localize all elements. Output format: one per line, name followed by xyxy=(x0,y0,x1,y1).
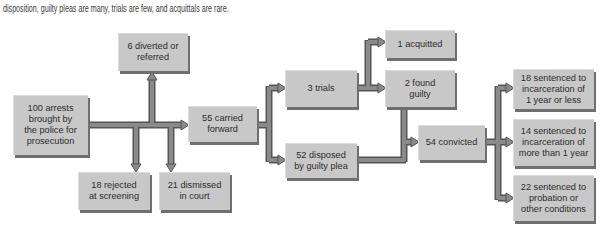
box-line: the police for xyxy=(24,125,77,136)
box-line: more than 1 year xyxy=(519,148,588,159)
box-trials: 3 trials xyxy=(285,70,357,107)
box-arrests: 100 arrests brought by the police for pr… xyxy=(13,95,88,155)
box-line: probation or xyxy=(529,193,578,204)
box-line: 6 diverted or xyxy=(127,41,178,52)
box-line: 21 dismissed xyxy=(168,180,222,191)
box-sentence-short: 18 sentenced to incarceration of 1 year … xyxy=(513,69,594,109)
box-sentence-long: 14 sentenced to incarceration of more th… xyxy=(513,119,594,166)
box-acquitted: 1 acquitted xyxy=(385,30,455,58)
box-line: by guilty plea xyxy=(294,161,348,172)
box-dismissed: 21 dismissed in court xyxy=(159,172,230,210)
box-line: forward xyxy=(207,124,238,135)
arrowhead-up-icon xyxy=(147,72,157,80)
box-line: referred xyxy=(137,52,169,63)
box-line: 100 arrests xyxy=(28,103,74,114)
box-line: 54 convicted xyxy=(426,137,478,148)
box-line: other conditions xyxy=(521,204,586,215)
box-convicted: 54 convicted xyxy=(418,125,485,160)
box-line: 18 rejected xyxy=(91,180,136,191)
box-line: 22 sentenced to xyxy=(521,182,586,193)
box-line: 2 found xyxy=(405,78,436,89)
box-line: brought by xyxy=(29,114,72,125)
box-sentence-probation: 22 sentenced to probation or other condi… xyxy=(513,175,594,221)
box-line: 3 trials xyxy=(307,83,334,94)
arrowhead-down-icon xyxy=(166,164,176,172)
box-line: prosecution xyxy=(27,136,75,147)
box-carried-forward: 55 carried forward xyxy=(188,106,257,142)
box-line: incarceration of xyxy=(522,137,585,148)
box-line: 55 carried xyxy=(202,113,243,124)
box-line: guilty xyxy=(409,89,430,100)
box-line: 52 disposed xyxy=(296,150,346,161)
box-line: at screening xyxy=(89,191,139,202)
box-line: 18 sentenced to xyxy=(521,73,586,84)
box-line: 14 sentenced to xyxy=(521,126,586,137)
box-line: incarceration of xyxy=(522,84,585,95)
arrowhead-down-icon xyxy=(131,164,141,172)
box-found-guilty: 2 found guilty xyxy=(385,70,455,107)
box-line: in court xyxy=(179,191,209,202)
box-line: 1 year or less xyxy=(526,95,581,106)
box-line: 1 acquitted xyxy=(398,39,443,50)
box-rejected: 18 rejected at screening xyxy=(78,172,150,210)
box-guilty-plea: 52 disposed by guilty plea xyxy=(285,143,357,178)
box-diverted: 6 diverted or referred xyxy=(118,33,188,71)
